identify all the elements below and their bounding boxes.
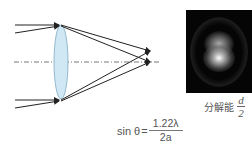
resolution-formula: sin θ = 1.22λ 2a xyxy=(117,118,183,143)
caption-fraction: d 2 xyxy=(237,95,245,118)
caption-numerator: d xyxy=(238,95,244,105)
formula-lhs: sin θ xyxy=(117,125,140,137)
refracted-ray xyxy=(61,62,150,101)
refracted-ray xyxy=(61,51,150,100)
caption-denominator: 2 xyxy=(238,108,244,118)
formula-denominator: 2a xyxy=(160,132,172,143)
formula-equals: = xyxy=(141,125,147,137)
incoming-ray xyxy=(15,26,59,33)
lower-disk xyxy=(203,44,235,72)
airy-pattern-image xyxy=(186,10,252,93)
convex-lens xyxy=(54,25,68,99)
incoming-ray xyxy=(15,101,59,108)
formula-fraction: 1.22λ 2a xyxy=(149,118,183,143)
caption-prefix: 分解能 xyxy=(204,99,234,114)
resolution-caption: 分解能 d 2 xyxy=(204,95,245,118)
refracted-ray xyxy=(61,25,150,51)
refracted-ray xyxy=(61,26,150,62)
formula-numerator: 1.22λ xyxy=(153,118,179,129)
